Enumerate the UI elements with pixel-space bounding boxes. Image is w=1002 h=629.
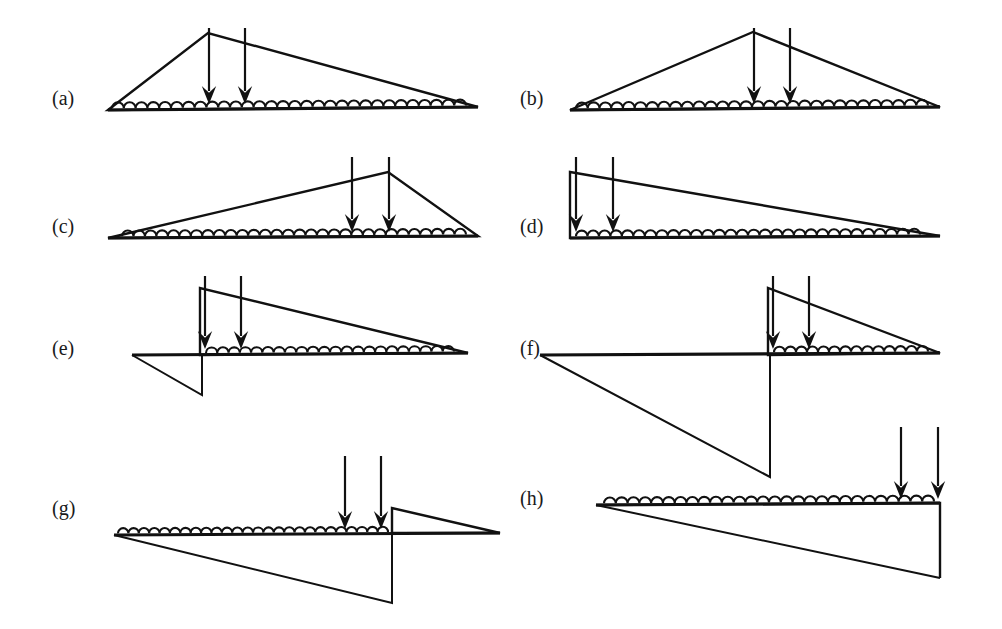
panel-label-a: (a) (52, 87, 74, 110)
beam-baseline-h (596, 503, 940, 505)
beam-baseline-b (570, 107, 940, 110)
panel-label-g: (g) (52, 497, 75, 520)
beam-lower-cantilever-h (596, 505, 940, 578)
point-load-c-1 (345, 157, 359, 232)
panel-g: (g) (52, 456, 500, 603)
beam-diagram-figure: (a)(b)(c)(d)(e)(f)(g)(h) (0, 0, 1002, 629)
point-load-d-2 (606, 157, 620, 232)
beam-outline-c (108, 172, 478, 238)
point-load-g-2 (374, 456, 388, 529)
panel-label-h: (h) (520, 487, 543, 510)
beam-outline-a (108, 33, 478, 110)
panel-c: (c) (52, 157, 478, 238)
beam-lower-cantilever-f (540, 355, 770, 477)
panel-label-c: (c) (52, 215, 74, 238)
beam-outline-g (392, 508, 500, 533)
point-load-h-2 (931, 427, 945, 499)
beam-lower-cantilever-e (132, 355, 202, 395)
point-load-b-2 (783, 28, 797, 104)
panel-e: (e) (52, 276, 468, 395)
beam-outline-f (768, 288, 940, 355)
point-load-a-1 (202, 28, 216, 104)
point-load-a-2 (238, 28, 252, 104)
panel-label-d: (d) (520, 215, 543, 238)
point-load-f-2 (802, 276, 816, 349)
panel-label-e: (e) (52, 337, 74, 360)
beam-baseline-f (540, 353, 940, 355)
beam-baseline-a (108, 107, 478, 110)
beam-baseline-e (132, 353, 468, 355)
beam-lower-cantilever-g (114, 535, 392, 603)
panel-a: (a) (52, 28, 478, 110)
panel-d: (d) (520, 157, 940, 238)
spring-foundation-f (774, 346, 928, 352)
panel-label-f: (f) (520, 337, 540, 360)
point-load-b-1 (747, 28, 761, 104)
point-load-c-2 (382, 157, 396, 232)
panel-h: (h) (520, 427, 945, 578)
beam-outline-d (570, 172, 940, 238)
point-load-e-2 (234, 276, 248, 349)
panel-label-b: (b) (520, 87, 543, 110)
figure-root: (a)(b)(c)(d)(e)(f)(g)(h) (0, 0, 1002, 629)
beam-baseline-c (108, 236, 478, 238)
beam-baseline-d (570, 236, 940, 238)
panel-b: (b) (520, 28, 940, 110)
point-load-g-1 (338, 456, 352, 529)
beam-baseline-g (114, 533, 500, 535)
panel-f: (f) (520, 276, 940, 477)
point-load-h-1 (894, 427, 908, 499)
